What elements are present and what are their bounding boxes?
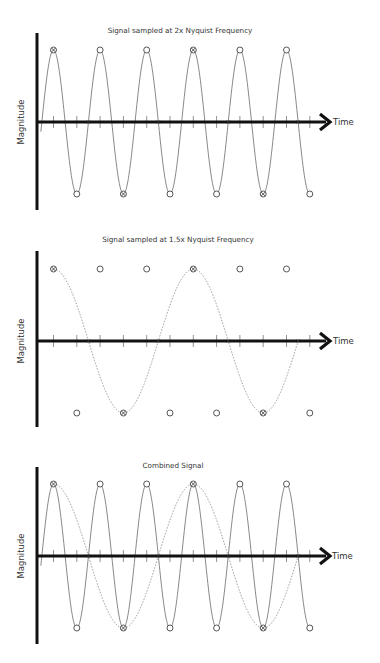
y-axis-label: Magnitude	[16, 99, 26, 144]
panel-middle: Signal sampled at 1.5x Nyquist Frequency…	[16, 235, 354, 427]
panel-title: Combined Signal	[143, 461, 204, 470]
x-axis-label: Time	[332, 117, 354, 127]
plot-area	[37, 251, 330, 427]
open-circle-marker	[284, 481, 290, 487]
panel-top: Signal sampled at 2x Nyquist Frequency M…	[16, 26, 354, 210]
open-circle-marker	[237, 266, 243, 272]
open-circle-marker	[237, 481, 243, 487]
panel-title: Signal sampled at 2x Nyquist Frequency	[108, 26, 253, 35]
y-axis-label: Magnitude	[16, 533, 26, 578]
open-circle-marker	[307, 625, 313, 631]
plot-area	[37, 33, 330, 210]
open-circle-marker	[144, 481, 150, 487]
open-circle-marker	[307, 191, 313, 197]
open-circle-marker	[144, 47, 150, 53]
sampling-diagram: Signal sampled at 2x Nyquist Frequency M…	[0, 0, 380, 663]
open-circle-marker	[214, 625, 220, 631]
x-axis-label: Time	[332, 336, 354, 346]
open-circle-marker	[167, 410, 173, 416]
open-circle-marker	[74, 191, 80, 197]
open-circle-marker	[237, 47, 243, 53]
y-axis-label: Magnitude	[16, 318, 26, 363]
panel-title: Signal sampled at 1.5x Nyquist Frequency	[102, 235, 254, 244]
open-circle-marker	[307, 410, 313, 416]
open-circle-marker	[284, 266, 290, 272]
open-circle-marker	[214, 191, 220, 197]
open-circle-marker	[97, 47, 103, 53]
x-axis-label: Time	[331, 551, 353, 561]
open-circle-marker	[144, 266, 150, 272]
open-circle-marker	[97, 266, 103, 272]
plot-area	[37, 467, 330, 644]
panel-bottom: Combined Signal Magnitude Time	[16, 461, 353, 644]
open-circle-marker	[74, 410, 80, 416]
open-circle-marker	[214, 410, 220, 416]
open-circle-marker	[97, 481, 103, 487]
open-circle-marker	[74, 625, 80, 631]
open-circle-marker	[167, 625, 173, 631]
open-circle-marker	[167, 191, 173, 197]
open-circle-marker	[284, 47, 290, 53]
